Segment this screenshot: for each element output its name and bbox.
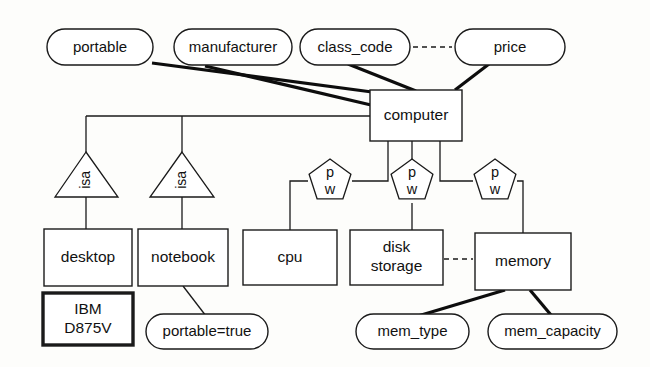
- attribute-mem_type[interactable]: mem_type: [356, 314, 469, 349]
- link-notebook-portabletrue: [183, 286, 206, 316]
- link-computer-cpu-a: [352, 141, 388, 181]
- link-memory-memtype: [418, 290, 505, 316]
- attribute-manufacturer[interactable]: manufacturer: [174, 29, 292, 65]
- entity-notebook-label: notebook: [151, 248, 215, 265]
- er-diagram-root: isaisa pwpwpw computerdesktopnotebookIBM…: [0, 0, 650, 367]
- isa-notebook[interactable]: isa: [150, 152, 214, 197]
- attribute-price[interactable]: price: [455, 29, 565, 65]
- pw-memory-bottom-label: w: [489, 181, 501, 197]
- pentagon-layer: pwpwpw: [309, 159, 516, 199]
- entity-computer-label: computer: [384, 106, 449, 123]
- isa-notebook-label: isa: [173, 171, 189, 189]
- isa-layer: isaisa: [55, 152, 214, 197]
- pw-memory-top-label: p: [491, 164, 499, 180]
- entity-ibm-label: D875V: [64, 319, 112, 336]
- entity-memory[interactable]: memory: [475, 233, 571, 290]
- entity-diskstorage-label: storage: [371, 257, 423, 274]
- link-class_code-computer: [348, 64, 416, 91]
- pw-disk-bottom-label: w: [406, 181, 418, 197]
- link-price-computer: [455, 64, 489, 90]
- entity-diskstorage-label: disk: [383, 238, 411, 255]
- attribute-mem_capacity[interactable]: mem_capacity: [488, 314, 617, 349]
- attribute-class_code[interactable]: class_code: [300, 29, 410, 65]
- pw-cpu[interactable]: pw: [309, 159, 351, 199]
- attribute-portable[interactable]: portable: [47, 29, 153, 65]
- pw-disk[interactable]: pw: [391, 159, 433, 199]
- entity-notebook[interactable]: notebook: [138, 229, 228, 286]
- link-portable-computer: [152, 63, 372, 92]
- entity-desktop-label: desktop: [61, 248, 115, 265]
- entity-cpu-label: cpu: [278, 248, 303, 265]
- attribute-portable_true-label: portable=true: [163, 322, 252, 339]
- attribute-class_code-label: class_code: [317, 38, 392, 55]
- isa-desktop[interactable]: isa: [55, 152, 118, 197]
- link-cpu-pent: [290, 181, 308, 230]
- entity-cpu[interactable]: cpu: [243, 230, 337, 285]
- entity-diskstorage[interactable]: diskstorage: [350, 230, 443, 285]
- entity-ibm-label: IBM: [74, 300, 102, 317]
- isa-desktop-label: isa: [77, 171, 93, 189]
- link-manufacturer-computer: [205, 66, 371, 105]
- er-diagram-canvas: isaisa pwpwpw computerdesktopnotebookIBM…: [0, 0, 650, 367]
- attribute-portable-label: portable: [73, 38, 127, 55]
- attribute-portable_true[interactable]: portable=true: [146, 314, 268, 349]
- attribute-mem_capacity-label: mem_capacity: [504, 322, 601, 339]
- entity-layer: computerdesktopnotebookIBMD875Vcpudiskst…: [43, 90, 571, 345]
- entity-computer[interactable]: computer: [370, 90, 462, 141]
- pw-cpu-bottom-label: w: [324, 181, 336, 197]
- entity-desktop[interactable]: desktop: [44, 229, 132, 286]
- link-computer-mem-a: [440, 141, 473, 181]
- attribute-mem_type-label: mem_type: [377, 322, 447, 339]
- link-memory-memcapacity: [530, 290, 551, 315]
- link-mem-pent: [517, 181, 523, 233]
- pw-disk-top-label: p: [408, 164, 416, 180]
- attribute-price-label: price: [494, 38, 527, 55]
- pw-memory[interactable]: pw: [474, 159, 516, 199]
- attribute-manufacturer-label: manufacturer: [189, 38, 277, 55]
- pw-cpu-top-label: p: [326, 164, 334, 180]
- entity-memory-label: memory: [495, 252, 551, 269]
- entity-ibm[interactable]: IBMD875V: [43, 293, 133, 345]
